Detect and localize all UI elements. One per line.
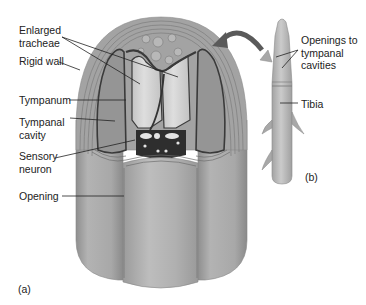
- insect-ear-diagram: Enlarged tracheae Rigid wall Tympanum Ty…: [0, 0, 366, 305]
- label-opening: Opening: [19, 190, 59, 203]
- panel-b-leg: [260, 19, 304, 184]
- label-enlarged-tracheae: Enlarged tracheae: [19, 24, 61, 49]
- panel-a-tag: (a): [18, 283, 31, 296]
- label-rigid-wall: Rigid wall: [19, 55, 64, 68]
- label-tympanal-cavity: Tympanal cavity: [19, 116, 65, 141]
- panel-b-tag: (b): [305, 171, 318, 184]
- panel-a-body: [76, 17, 262, 288]
- label-tympanum: Tympanum: [19, 94, 71, 107]
- label-tibia: Tibia: [301, 98, 323, 111]
- label-sensory-neuron: Sensory neuron: [19, 150, 58, 175]
- label-openings-to-tympanal-cavities: Openings to tympanal cavities: [301, 34, 358, 72]
